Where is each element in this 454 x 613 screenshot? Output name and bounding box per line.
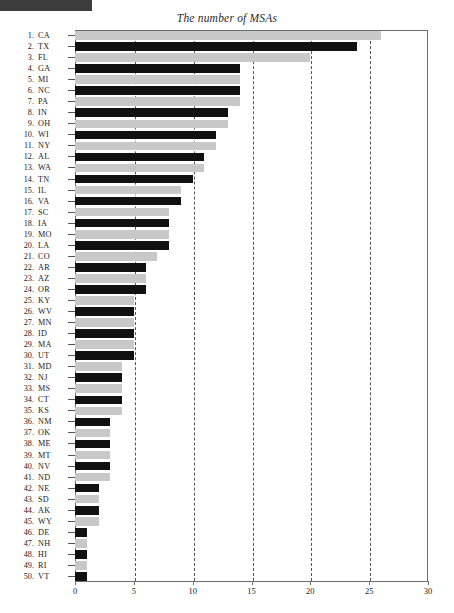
- row-label-nv: NV: [38, 461, 64, 472]
- y-axis-tick: [68, 156, 75, 157]
- row-label-nh: NH: [38, 538, 64, 549]
- y-axis-tick: [68, 432, 75, 433]
- row-label-de: DE: [38, 527, 64, 538]
- bar-ct: [75, 396, 122, 405]
- x-tick-label-25: 25: [354, 586, 384, 596]
- x-tick-mark-20: [310, 581, 311, 585]
- row-label-sd: SD: [38, 494, 64, 505]
- chart-row: 23.AZ: [0, 273, 454, 284]
- y-axis-tick: [68, 499, 75, 500]
- bar-wv: [75, 307, 134, 316]
- row-rank: 33.: [8, 383, 34, 394]
- row-rank: 29.: [8, 339, 34, 350]
- row-label-ct: CT: [38, 394, 64, 405]
- row-label-ks: KS: [38, 405, 64, 416]
- row-label-oh: OH: [38, 118, 64, 129]
- row-label-wi: WI: [38, 129, 64, 140]
- bar-nv: [75, 462, 110, 471]
- row-label-ne: NE: [38, 483, 64, 494]
- chart-row: 30.UT: [0, 350, 454, 361]
- row-rank: 17.: [8, 207, 34, 218]
- chart-row: 3.FL: [0, 52, 454, 63]
- row-label-wv: WV: [38, 306, 64, 317]
- bar-rows: 1.CA2.TX3.FL4.GA5.MI6.NC7.PA8.IN9.OH10.W…: [0, 30, 454, 582]
- bar-ar: [75, 263, 146, 272]
- chart-row: 25.KY: [0, 295, 454, 306]
- chart-row: 26.WV: [0, 306, 454, 317]
- row-rank: 6.: [8, 85, 34, 96]
- chart-row: 48.HI: [0, 549, 454, 560]
- chart-row: 41.ND: [0, 472, 454, 483]
- row-rank: 24.: [8, 284, 34, 295]
- row-rank: 9.: [8, 118, 34, 129]
- bar-mo: [75, 230, 169, 239]
- row-label-hi: HI: [38, 549, 64, 560]
- row-rank: 21.: [8, 251, 34, 262]
- row-rank: 13.: [8, 162, 34, 173]
- bar-az: [75, 274, 146, 283]
- bar-chart-figure: The number of MSAs 1.CA2.TX3.FL4.GA5.MI6…: [0, 0, 454, 613]
- row-label-ms: MS: [38, 383, 64, 394]
- row-rank: 19.: [8, 229, 34, 240]
- row-rank: 27.: [8, 317, 34, 328]
- bar-ma: [75, 340, 134, 349]
- x-tick-mark-10: [193, 581, 194, 585]
- chart-row: 29.MA: [0, 339, 454, 350]
- row-rank: 4.: [8, 63, 34, 74]
- y-axis-tick: [68, 355, 75, 356]
- chart-row: 24.OR: [0, 284, 454, 295]
- row-label-ga: GA: [38, 63, 64, 74]
- row-rank: 2.: [8, 41, 34, 52]
- chart-row: 5.MI: [0, 74, 454, 85]
- row-label-vt: VT: [38, 571, 64, 582]
- x-tick-label-5: 5: [119, 586, 149, 596]
- row-rank: 31.: [8, 361, 34, 372]
- y-axis-tick: [68, 377, 75, 378]
- chart-row: 8.IN: [0, 107, 454, 118]
- row-label-mt: MT: [38, 450, 64, 461]
- row-rank: 44.: [8, 505, 34, 516]
- chart-row: 46.DE: [0, 527, 454, 538]
- row-rank: 42.: [8, 483, 34, 494]
- row-label-sc: SC: [38, 207, 64, 218]
- bar-nd: [75, 473, 110, 482]
- chart-row: 50.VT: [0, 571, 454, 582]
- y-axis-tick: [68, 212, 75, 213]
- row-label-ma: MA: [38, 339, 64, 350]
- row-label-ut: UT: [38, 350, 64, 361]
- y-axis-tick: [68, 167, 75, 168]
- x-tick-label-0: 0: [60, 586, 90, 596]
- row-label-tx: TX: [38, 41, 64, 52]
- y-axis-tick: [68, 267, 75, 268]
- y-axis-tick: [68, 443, 75, 444]
- bar-mi: [75, 75, 240, 84]
- bar-al: [75, 153, 204, 162]
- row-rank: 15.: [8, 185, 34, 196]
- y-axis-tick: [68, 101, 75, 102]
- y-axis-tick: [68, 410, 75, 411]
- chart-row: 2.TX: [0, 41, 454, 52]
- row-rank: 38.: [8, 438, 34, 449]
- bar-va: [75, 197, 181, 206]
- row-rank: 35.: [8, 405, 34, 416]
- row-label-ak: AK: [38, 505, 64, 516]
- chart-row: 32.NJ: [0, 372, 454, 383]
- chart-row: 44.AK: [0, 505, 454, 516]
- y-axis-tick: [68, 421, 75, 422]
- chart-row: 31.MD: [0, 361, 454, 372]
- y-axis-tick: [68, 366, 75, 367]
- row-label-ar: AR: [38, 262, 64, 273]
- y-axis-tick: [68, 510, 75, 511]
- bar-wy: [75, 517, 99, 526]
- bar-oh: [75, 120, 228, 129]
- bar-ca: [75, 31, 381, 40]
- y-axis-tick: [68, 344, 75, 345]
- chart-row: 21.CO: [0, 251, 454, 262]
- row-rank: 18.: [8, 218, 34, 229]
- bar-nc: [75, 86, 240, 95]
- row-rank: 8.: [8, 107, 34, 118]
- x-tick-mark-25: [369, 581, 370, 585]
- chart-row: 19.MO: [0, 229, 454, 240]
- row-rank: 49.: [8, 560, 34, 571]
- y-axis-tick: [68, 543, 75, 544]
